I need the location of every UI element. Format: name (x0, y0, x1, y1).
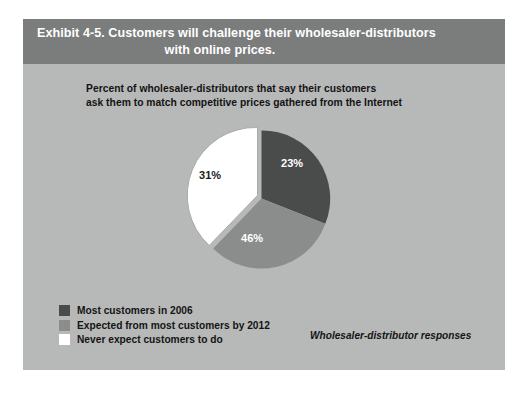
legend-label-most-customers-2006: Most customers in 2006 (77, 305, 193, 316)
legend-swatch-icon-white (59, 334, 70, 345)
exhibit-title: Exhibit 4-5. Customers will challenge th… (37, 25, 491, 58)
pie-label-most-customers-2006: 23% (281, 157, 303, 169)
pie-chart-svg (173, 124, 353, 284)
pie-slice-most-customers-2006 (262, 130, 331, 223)
exhibit-title-line-1: Exhibit 4-5. Customers will challenge th… (37, 25, 491, 42)
legend-swatch-icon-dark (59, 305, 70, 316)
chart-subtitle-line-1: Percent of wholesaler-distributors that … (86, 82, 486, 96)
exhibit-title-line-2: with online prices. (37, 42, 491, 59)
chart-subtitle-line-2: ask them to match competitive prices gat… (86, 96, 486, 110)
pie-label-never-expect: 31% (199, 169, 221, 181)
legend-label-expected-by-2012: Expected from most customers by 2012 (77, 320, 270, 331)
legend-swatch-icon-medium (59, 320, 70, 331)
pie-slice-never-expect (187, 127, 257, 245)
source-note: Wholesaler-distributor responses (310, 330, 471, 341)
chart-subtitle: Percent of wholesaler-distributors that … (86, 82, 486, 109)
legend-item-most-customers-2006: Most customers in 2006 (59, 303, 359, 318)
pie-label-expected-by-2012: 46% (241, 232, 263, 244)
exhibit-header-band: Exhibit 4-5. Customers will challenge th… (23, 19, 505, 64)
pie-slice-expected-by-2012 (213, 199, 325, 269)
legend-label-never-expect: Never expect customers to do (77, 334, 223, 345)
exhibit-card: Exhibit 4-5. Customers will challenge th… (23, 19, 505, 370)
